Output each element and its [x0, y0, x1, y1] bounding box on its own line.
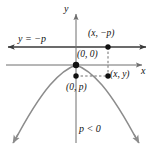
parabola-left-arrow — [13, 134, 18, 143]
point-on-directrix-marker — [105, 44, 110, 49]
point-on-parabola-label: (x, y) — [110, 70, 130, 80]
x-axis-label: x — [141, 66, 145, 76]
parabola-figure: y x y = −p (x, −p) (0, 0) (x, y) (0, p) … — [0, 0, 152, 150]
focus-marker — [73, 73, 78, 78]
condition-label: p < 0 — [79, 124, 101, 134]
focus-label: (0, p) — [66, 83, 87, 93]
y-axis-label: y — [64, 4, 68, 14]
directrix-equation-label: y = −p — [18, 34, 46, 44]
origin-label: (0, 0) — [77, 50, 98, 60]
origin-marker — [73, 62, 79, 68]
point-on-directrix-label: (x, −p) — [88, 29, 114, 39]
parabola-right-arrow — [134, 134, 139, 143]
